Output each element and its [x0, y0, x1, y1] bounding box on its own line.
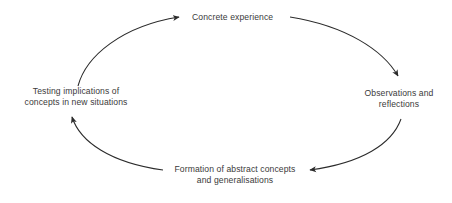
- node-label-line: concepts in new situations: [12, 97, 140, 108]
- node-label-line: Formation of abstract concepts: [168, 164, 302, 175]
- arrow-testing-to-concrete: [78, 17, 179, 86]
- node-label-line: Testing implications of: [12, 86, 140, 97]
- node-label-line: Observations and: [358, 88, 440, 99]
- arrow-observations-to-formation: [310, 119, 401, 170]
- node-label-formation-abstract: Formation of abstract concepts and gener…: [168, 164, 302, 186]
- kolb-learning-cycle-diagram: Concrete experience Observations and ref…: [0, 0, 452, 203]
- node-label-line: reflections: [358, 99, 440, 110]
- arrow-formation-to-testing: [72, 117, 163, 170]
- arrow-concrete-to-observations: [290, 17, 398, 76]
- node-label-line: and generalisations: [168, 175, 302, 186]
- node-label-line: Concrete experience: [192, 12, 273, 23]
- node-label-concrete-experience: Concrete experience: [192, 12, 273, 23]
- node-label-testing-implications: Testing implications of concepts in new …: [12, 86, 140, 108]
- node-label-observations-reflections: Observations and reflections: [358, 88, 440, 110]
